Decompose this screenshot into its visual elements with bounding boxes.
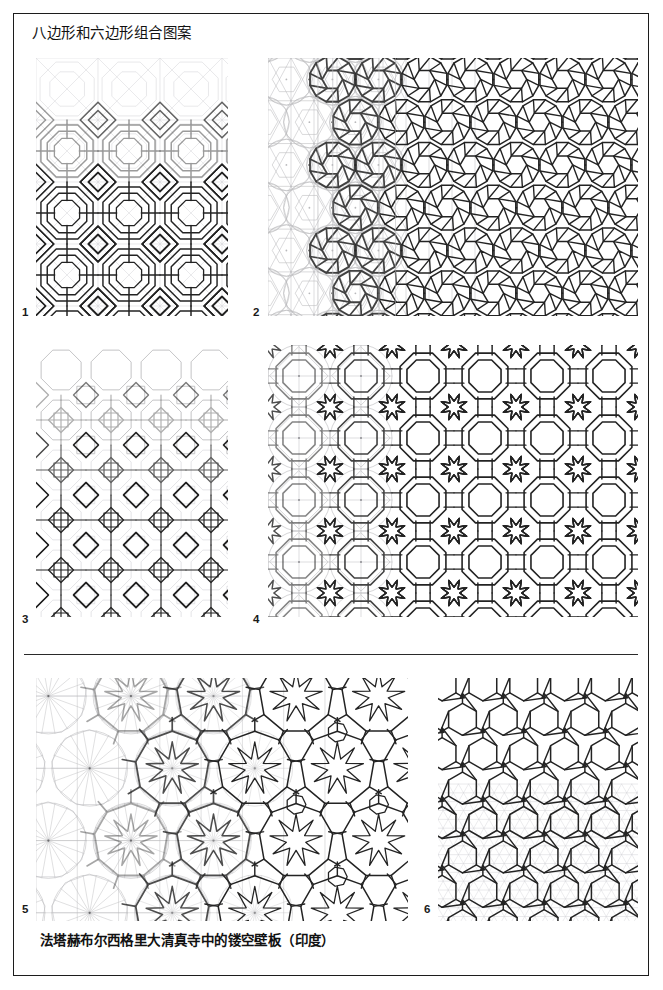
panel-number-1: 1 bbox=[22, 306, 28, 318]
figure-caption: 法塔赫布尔西格里大清真寺中的镂空壁板（印度） bbox=[40, 929, 335, 949]
panel-number-3: 3 bbox=[22, 613, 28, 625]
panel-number-2: 2 bbox=[253, 306, 259, 318]
page-canvas: 八边形和六边形组合图案 1 2 3 4 5 6 法塔赫布尔西格里大清真寺中的镂空… bbox=[0, 0, 663, 990]
figure-panel-6 bbox=[438, 678, 638, 921]
figure-panel-1 bbox=[36, 58, 228, 316]
section-divider bbox=[24, 654, 638, 655]
panel-number-5: 5 bbox=[22, 903, 28, 915]
page-title: 八边形和六边形组合图案 bbox=[32, 21, 192, 42]
figure-panel-3 bbox=[36, 345, 228, 617]
panel-number-6: 6 bbox=[424, 903, 430, 915]
figure-panel-2 bbox=[268, 58, 638, 316]
panel-number-4: 4 bbox=[253, 613, 259, 625]
figure-panel-4 bbox=[268, 345, 638, 617]
figure-panel-5 bbox=[36, 678, 408, 921]
